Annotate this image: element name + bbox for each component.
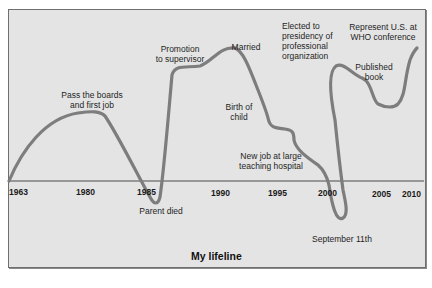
event-boards-line1: Pass the boards [60,90,124,100]
lifeline-figure: 1963 1980 1985 1990 1995 2000 2005 2010 … [0,0,432,288]
event-elected-line3: professional [282,41,333,51]
tick-1980: 1980 [76,187,95,197]
event-new-job-line1: New job at large [234,151,308,161]
event-elected-label: Elected to presidency of professional or… [282,21,333,61]
event-promotion-line2: to supervisor [150,54,210,64]
lifeline-plot [0,0,432,288]
tick-1990: 1990 [211,188,230,198]
event-published-label: Published book [350,62,398,82]
event-published-line1: Published [350,62,398,72]
event-elected-line2: presidency of [282,31,333,41]
event-new-job-line2: teaching hospital [234,161,308,171]
tick-2005: 2005 [372,189,391,199]
event-birth-line2: child [222,112,256,122]
event-parent-died-label: Parent died [135,206,187,216]
event-boards-line2: and first job [60,100,124,110]
tick-2000: 2000 [318,188,337,198]
event-birth-label: Birth of child [222,102,256,122]
tick-1995: 1995 [268,188,287,198]
event-boards-label: Pass the boards and first job [60,90,124,110]
event-elected-line4: organization [282,51,333,61]
event-promotion-label: Promotion to supervisor [150,44,210,64]
tick-1985: 1985 [137,187,156,197]
event-who-line1: Represent U.S. at [346,22,420,32]
event-elected-line1: Elected to [282,21,333,31]
event-who-label: Represent U.S. at WHO conference [346,22,420,42]
event-new-job-label: New job at large teaching hospital [234,151,308,171]
chart-title: My lifeline [191,250,242,262]
event-who-line2: WHO conference [346,32,420,42]
tick-1963: 1963 [9,187,28,197]
event-september-label: September 11th [310,234,374,244]
tick-2010: 2010 [402,189,421,199]
event-promotion-line1: Promotion [150,44,210,54]
event-published-line2: book [350,72,398,82]
event-married-label: Married [228,42,264,52]
event-birth-line1: Birth of [222,102,256,112]
